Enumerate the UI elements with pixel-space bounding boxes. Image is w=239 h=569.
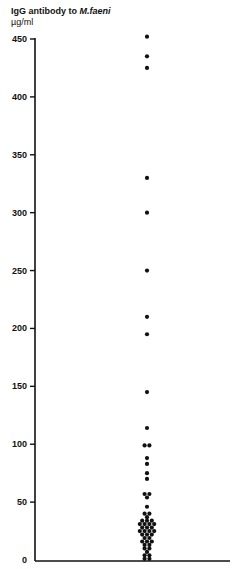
- y-tick-label: 50: [17, 497, 27, 507]
- data-point: [145, 550, 149, 554]
- data-point: [145, 525, 149, 529]
- data-point: [150, 532, 154, 536]
- scatter-plot: 050100150200250300350400450: [0, 0, 239, 569]
- data-point: [147, 536, 151, 540]
- data-point: [145, 505, 149, 509]
- data-point: [143, 557, 147, 561]
- data-points: [138, 35, 157, 561]
- data-point: [140, 539, 144, 543]
- data-point: [145, 495, 149, 499]
- data-point: [140, 532, 144, 536]
- data-point: [147, 492, 151, 496]
- data-point: [138, 529, 142, 533]
- data-point: [145, 532, 149, 536]
- data-point: [145, 66, 149, 70]
- data-point: [138, 522, 142, 526]
- y-tick-label: 350: [12, 150, 27, 160]
- data-point: [143, 536, 147, 540]
- y-tick-label: 0: [22, 555, 27, 565]
- data-point: [150, 539, 154, 543]
- data-point: [145, 390, 149, 394]
- data-point: [145, 426, 149, 430]
- data-point: [147, 512, 151, 516]
- y-tick-label: 100: [12, 439, 27, 449]
- data-point: [145, 176, 149, 180]
- y-tick-label: 250: [12, 266, 27, 276]
- axes: 050100150200250300350400450: [12, 34, 230, 565]
- data-point: [145, 35, 149, 39]
- data-point: [147, 443, 151, 447]
- data-point: [145, 268, 149, 272]
- data-point: [152, 522, 156, 526]
- data-point: [147, 529, 151, 533]
- y-tick-label: 300: [12, 208, 27, 218]
- data-point: [145, 477, 149, 481]
- data-point: [150, 525, 154, 529]
- y-tick-label: 450: [12, 34, 27, 44]
- data-point: [143, 512, 147, 516]
- data-point: [140, 519, 144, 523]
- data-point: [147, 522, 151, 526]
- data-point: [143, 443, 147, 447]
- data-point: [143, 522, 147, 526]
- data-point: [145, 539, 149, 543]
- data-point: [143, 546, 147, 550]
- data-point: [140, 525, 144, 529]
- data-point: [143, 492, 147, 496]
- data-point: [147, 557, 151, 561]
- data-point: [147, 546, 151, 550]
- data-point: [145, 332, 149, 336]
- data-point: [145, 211, 149, 215]
- y-tick-label: 400: [12, 92, 27, 102]
- data-point: [145, 315, 149, 319]
- y-tick-label: 150: [12, 381, 27, 391]
- data-point: [152, 529, 156, 533]
- data-point: [145, 519, 149, 523]
- data-point: [150, 519, 154, 523]
- data-point: [143, 529, 147, 533]
- data-point: [145, 54, 149, 58]
- data-point: [145, 462, 149, 466]
- y-tick-label: 200: [12, 323, 27, 333]
- data-point: [145, 471, 149, 475]
- data-point: [145, 456, 149, 460]
